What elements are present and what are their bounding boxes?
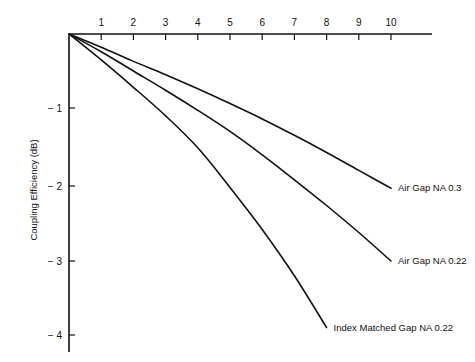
y-tick-label: − 2 — [48, 181, 63, 192]
y-tick-label: − 4 — [48, 330, 63, 341]
y-axis-ticks: − 1− 2− 3− 4 — [48, 103, 75, 341]
x-tick-label: 3 — [163, 17, 169, 28]
x-tick-label: 4 — [195, 17, 201, 28]
series-line — [69, 34, 327, 328]
y-axis-title: Coupling Efficiency (dB) — [28, 139, 39, 240]
x-tick-label: 10 — [385, 17, 397, 28]
series-label: Air Gap NA 0.22 — [398, 255, 467, 266]
x-tick-label: 8 — [324, 17, 330, 28]
y-tick-label: − 3 — [48, 256, 63, 267]
series-label: Air Gap NA 0.3 — [398, 182, 461, 193]
x-tick-label: 7 — [292, 17, 298, 28]
x-tick-label: 1 — [98, 17, 104, 28]
x-tick-label: 9 — [356, 17, 362, 28]
x-tick-label: 2 — [131, 17, 137, 28]
y-tick-label: − 1 — [48, 103, 63, 114]
x-tick-label: 6 — [259, 17, 265, 28]
x-tick-label: 5 — [227, 17, 233, 28]
series-line — [69, 34, 391, 261]
series-line — [69, 34, 391, 188]
series-labels: Air Gap NA 0.3Air Gap NA 0.22Index Match… — [334, 182, 467, 332]
coupling-efficiency-chart: 12345678910 − 1− 2− 3− 4 Air Gap NA 0.3A… — [0, 0, 475, 362]
x-axis-ticks: 12345678910 — [98, 17, 397, 40]
series-lines — [69, 34, 391, 328]
axes — [69, 34, 432, 352]
series-label: Index Matched Gap NA 0.22 — [334, 322, 453, 333]
